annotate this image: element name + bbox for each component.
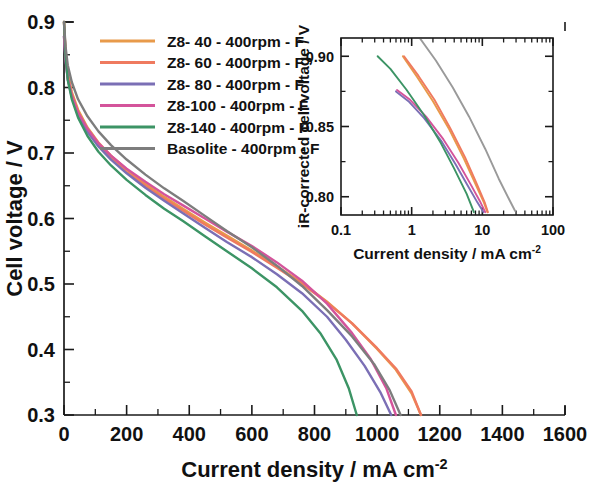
main-x-ticklabel: 1600 bbox=[543, 423, 588, 445]
legend-label: Z8-100 - 400rpm - F bbox=[167, 97, 308, 114]
chart-legend: Z8- 40 - 400rpm - FZ8- 60 - 400rpm - FZ8… bbox=[100, 33, 319, 158]
main-y-ticklabel: 0.4 bbox=[27, 339, 56, 361]
main-x-ticklabel: 400 bbox=[173, 423, 206, 445]
legend-label: Z8-140 - 400rpm - F bbox=[167, 119, 308, 136]
main-y-ticklabel: 0.3 bbox=[27, 404, 55, 426]
main-x-axis-title: Current density / mA cm-2 bbox=[181, 456, 447, 482]
inset-x-ticklabel: 10 bbox=[474, 222, 490, 238]
inset-x-ticklabel: 0.1 bbox=[331, 222, 351, 238]
main-y-ticklabel: 0.8 bbox=[27, 77, 55, 99]
polarization-curve-figure: 020040060080010001200140016000.30.40.50.… bbox=[0, 0, 591, 485]
main-x-ticklabel: 1400 bbox=[480, 423, 525, 445]
main-x-ticklabel: 1000 bbox=[355, 423, 400, 445]
inset-x-ticklabel: 100 bbox=[541, 222, 565, 238]
main-x-ticklabel: 800 bbox=[298, 423, 331, 445]
figure-canvas: 020040060080010001200140016000.30.40.50.… bbox=[0, 0, 591, 485]
main-y-axis-title: Cell voltage / V bbox=[2, 140, 27, 297]
legend-label: Z8- 40 - 400rpm - F bbox=[167, 33, 304, 50]
main-x-ticklabel: 600 bbox=[235, 423, 268, 445]
main-y-ticklabel: 0.7 bbox=[27, 142, 55, 164]
inset-x-axis-title: Current density / mA cm-2 bbox=[353, 244, 541, 262]
inset-tafel-plot: 0.11101000.800.850.90Current density / m… bbox=[295, 24, 565, 262]
main-x-ticklabel: 0 bbox=[58, 423, 69, 445]
legend-label: Z8- 60 - 400rpm - F bbox=[167, 54, 304, 71]
main-x-ticklabel: 1200 bbox=[418, 423, 463, 445]
legend-label: Z8- 80 - 400rpm - F bbox=[167, 76, 304, 93]
main-y-ticklabel: 0.6 bbox=[27, 208, 55, 230]
inset-x-ticklabel: 1 bbox=[408, 222, 416, 238]
inset-y-axis-title: iR-corrected cell voltage / V bbox=[295, 24, 312, 228]
main-y-ticklabel: 0.9 bbox=[27, 11, 55, 33]
main-x-ticklabel: 200 bbox=[110, 423, 143, 445]
main-y-ticklabel: 0.5 bbox=[27, 273, 55, 295]
